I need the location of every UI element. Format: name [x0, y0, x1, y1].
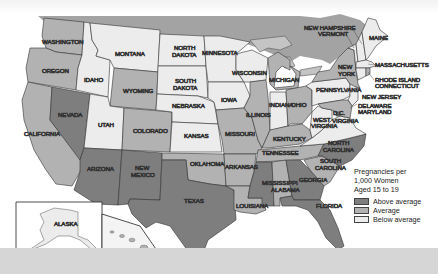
svg-text:MISSOURI: MISSOURI: [225, 130, 255, 137]
svg-text:ARKANSAS: ARKANSAS: [225, 163, 258, 170]
svg-text:IOWA: IOWA: [221, 96, 238, 103]
svg-text:NEBRASKA: NEBRASKA: [172, 102, 206, 109]
map-legend: Pregnancies per 1,000 Women Aged 15 to 1…: [354, 167, 438, 224]
svg-text:WASHINGTON: WASHINGTON: [42, 38, 83, 45]
svg-text:MICHIGAN: MICHIGAN: [269, 76, 299, 83]
svg-text:TEXAS: TEXAS: [184, 197, 204, 204]
svg-text:NEW JERSEY: NEW JERSEY: [362, 93, 401, 100]
svg-text:CAROLINA: CAROLINA: [323, 146, 355, 153]
legend-item-below: Below average: [354, 215, 438, 224]
svg-text:NORTH: NORTH: [174, 44, 195, 51]
svg-text:DAKOTA: DAKOTA: [172, 51, 197, 58]
svg-text:GEORGIA: GEORGIA: [299, 176, 328, 183]
svg-text:OKLAHOMA: OKLAHOMA: [190, 160, 225, 167]
svg-text:NORTH: NORTH: [328, 139, 349, 146]
svg-text:YORK: YORK: [338, 70, 356, 77]
bottom-bar: [0, 248, 438, 274]
svg-text:VIRGINIA: VIRGINIA: [332, 117, 359, 124]
us-map: WASHINGTON OREGON CALIFORNIA NEVADA IDAH…: [0, 0, 438, 274]
svg-text:MAINE: MAINE: [369, 34, 388, 41]
svg-text:MEXICO: MEXICO: [131, 171, 155, 178]
svg-text:OREGON: OREGON: [42, 67, 69, 74]
svg-text:UTAH: UTAH: [98, 121, 114, 128]
svg-text:KENTUCKY: KENTUCKY: [273, 135, 306, 142]
svg-text:MINNESOTA: MINNESOTA: [202, 49, 238, 56]
svg-text:CALIFORNIA: CALIFORNIA: [24, 130, 61, 137]
svg-text:OHIO: OHIO: [291, 101, 307, 108]
svg-text:MARYLAND: MARYLAND: [358, 108, 392, 115]
svg-text:FLORIDA: FLORIDA: [316, 202, 343, 209]
swatch-average-icon: [354, 207, 369, 214]
svg-text:MONTANA: MONTANA: [115, 50, 146, 57]
swatch-below-icon: [354, 216, 369, 223]
svg-text:LOUISIANA: LOUISIANA: [236, 202, 269, 209]
svg-text:MASSACHUSETTS: MASSACHUSETTS: [375, 61, 429, 68]
svg-text:ILLINOIS: ILLINOIS: [246, 111, 271, 118]
legend-item-average: Average: [354, 206, 438, 215]
svg-text:WISCONSIN: WISCONSIN: [232, 69, 267, 76]
svg-text:IDAHO: IDAHO: [84, 76, 103, 83]
svg-text:DAKOTA: DAKOTA: [173, 84, 198, 91]
svg-text:SOUTH: SOUTH: [320, 157, 341, 164]
svg-text:NEW: NEW: [338, 63, 352, 70]
svg-text:MISSISSIPPI: MISSISSIPPI: [262, 179, 298, 186]
svg-text:ARIZONA: ARIZONA: [87, 165, 115, 172]
svg-text:D.C.: D.C.: [333, 109, 345, 116]
legend-title: Pregnancies per 1,000 Women Aged 15 to 1…: [354, 167, 438, 194]
svg-text:ALASKA: ALASKA: [54, 220, 78, 227]
state-arizona[interactable]: [74, 148, 122, 205]
svg-text:CAROLINA: CAROLINA: [315, 164, 347, 171]
svg-text:NEW: NEW: [135, 164, 149, 171]
svg-text:VERMONT: VERMONT: [318, 30, 349, 37]
svg-text:WYOMING: WYOMING: [123, 87, 154, 94]
svg-text:SOUTH: SOUTH: [175, 77, 196, 84]
state-massachusetts[interactable]: [356, 60, 376, 68]
state-wisconsin[interactable]: [236, 50, 268, 82]
state-connecticut[interactable]: [356, 68, 366, 80]
svg-text:NEVADA: NEVADA: [58, 111, 83, 118]
swatch-above-icon: [354, 198, 369, 205]
svg-text:TENNESSEE: TENNESSEE: [262, 149, 299, 156]
svg-text:COLORADO: COLORADO: [133, 127, 168, 134]
state-indiana[interactable]: [270, 92, 288, 130]
svg-text:CONNECTICUT: CONNECTICUT: [375, 82, 419, 89]
svg-text:PENNSYLVANIA: PENNSYLVANIA: [316, 86, 362, 93]
svg-text:ALABAMA: ALABAMA: [271, 186, 301, 193]
svg-text:KANSAS: KANSAS: [184, 132, 209, 139]
legend-item-above: Above average: [354, 197, 438, 206]
